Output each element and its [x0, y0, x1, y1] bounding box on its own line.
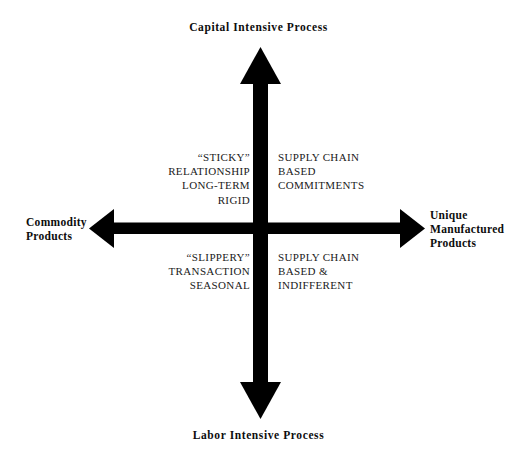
left-arrowhead	[89, 209, 114, 248]
quadrant-top-right: SUPPLY CHAIN BASED COMMITMENTS	[278, 150, 468, 193]
axis-label-right: Unique Manufactured Products	[430, 208, 504, 250]
quadrant-top-left: “STICKY” RELATIONSHIP LONG-TERM RIGID	[70, 150, 250, 207]
up-arrowhead	[240, 47, 281, 84]
quadrant-diagram: Capital Intensive Process Labor Intensiv…	[0, 0, 517, 460]
horizontal-axis-shaft	[110, 223, 415, 235]
axis-label-bottom: Labor Intensive Process	[0, 428, 517, 442]
quadrant-bottom-left: “SLIPPERY” TRANSACTION SEASONAL	[70, 250, 250, 293]
quadrant-bottom-right: SUPPLY CHAIN BASED & INDIFFERENT	[278, 250, 468, 293]
axis-label-top: Capital Intensive Process	[0, 20, 517, 34]
down-arrowhead	[240, 382, 281, 419]
right-arrowhead	[400, 209, 425, 248]
axis-label-left: Commodity Products	[26, 215, 87, 243]
